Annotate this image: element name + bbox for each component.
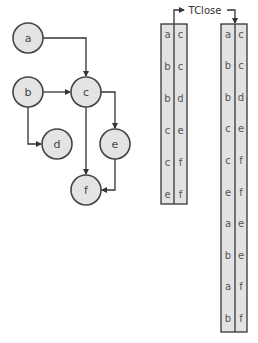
table-cell: a [225, 29, 231, 40]
node-label: c [83, 86, 89, 99]
table-cell: f [239, 155, 243, 166]
node-label: b [25, 86, 32, 99]
table-cell: f [239, 313, 243, 324]
table-cell: a [164, 29, 170, 40]
table-cell: e [238, 123, 244, 134]
table-cell: e [238, 250, 244, 261]
edge-b-d [28, 107, 41, 144]
tclose-arrow-left [174, 10, 184, 24]
graph-node-c: c [71, 77, 101, 107]
input-relation-table: acbcbdcecfef [161, 24, 187, 204]
table-cell: c [238, 29, 244, 40]
node-label: e [112, 138, 119, 151]
table-cell: d [177, 93, 183, 104]
table-cell: b [164, 93, 170, 104]
graph-node-b: b [13, 77, 43, 107]
table-cell: a [225, 281, 231, 292]
table-cell: b [225, 250, 231, 261]
table-cell: c [178, 61, 184, 72]
graph-node-f: f [71, 175, 101, 205]
node-label: a [25, 32, 32, 45]
graph-node-e: e [100, 129, 130, 159]
edge-a-c [43, 38, 86, 76]
table-cell: d [238, 92, 244, 103]
table-cell: c [165, 125, 171, 136]
table-cell: c [178, 29, 184, 40]
tclose-label: TClose [188, 5, 222, 16]
graph-node-d: d [42, 129, 72, 159]
table-cell: b [225, 313, 231, 324]
graph-nodes: abcdef [13, 23, 130, 205]
table-cell: c [225, 123, 231, 134]
graph-node-a: a [13, 23, 43, 53]
table-cell: c [238, 60, 244, 71]
table-cell: e [238, 218, 244, 229]
diagram-canvas: abcdef TClose acbcbdcecfef acbcbdcecfefa… [0, 0, 258, 343]
output-relation-table: acbcbdcecfefaebeafbf [221, 24, 247, 332]
table-cell: f [239, 187, 243, 198]
edge-c-e [101, 92, 115, 128]
tclose-arrow-right [227, 10, 235, 23]
node-label: d [54, 138, 61, 151]
graph-edges [28, 38, 115, 190]
table-cell: f [179, 189, 183, 200]
table-cell: e [164, 189, 170, 200]
table-cell: c [225, 155, 231, 166]
tclose-operation: TClose [174, 5, 235, 25]
table-cell: f [239, 281, 243, 292]
table-cell: c [165, 157, 171, 168]
table-cell: b [225, 60, 231, 71]
table-cell: e [225, 187, 231, 198]
table-cell: f [179, 157, 183, 168]
edge-e-f [102, 159, 115, 190]
table-cell: b [164, 61, 170, 72]
table-cell: e [177, 125, 183, 136]
table-cell: a [225, 218, 231, 229]
table-cell: b [225, 92, 231, 103]
